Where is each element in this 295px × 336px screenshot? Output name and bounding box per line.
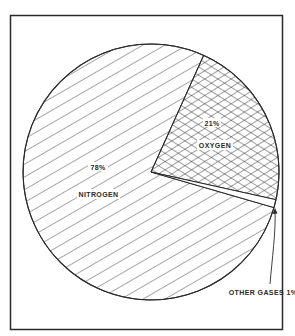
oxygen-name-label: OXYGEN: [199, 142, 231, 149]
oxygen-percent-label: 21%: [204, 120, 220, 127]
nitrogen-name-label: NITROGEN: [78, 191, 118, 198]
nitrogen-percent-label: 78%: [90, 164, 106, 171]
other-gases-label: OTHER GASES 1%: [229, 289, 295, 296]
pie-chart: 21% OXYGEN 78% NITROGEN OTHER GASES 1%: [0, 0, 295, 336]
other-gases-arrow: [270, 211, 275, 284]
